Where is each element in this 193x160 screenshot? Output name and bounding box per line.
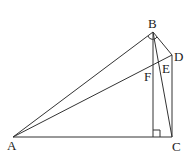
label-F: F xyxy=(144,70,151,83)
segment-BC xyxy=(153,32,172,137)
diagram-canvas xyxy=(0,0,193,160)
geometry-diagram: B D E F A C xyxy=(0,0,193,160)
label-A: A xyxy=(7,139,16,152)
segment-AB xyxy=(13,32,153,137)
segment-BD xyxy=(153,32,172,55)
segment-AD xyxy=(13,55,172,137)
right-angle-marker xyxy=(153,130,160,137)
label-C: C xyxy=(172,140,181,153)
label-B: B xyxy=(148,17,157,30)
label-D: D xyxy=(174,50,183,63)
label-E: E xyxy=(162,62,170,75)
